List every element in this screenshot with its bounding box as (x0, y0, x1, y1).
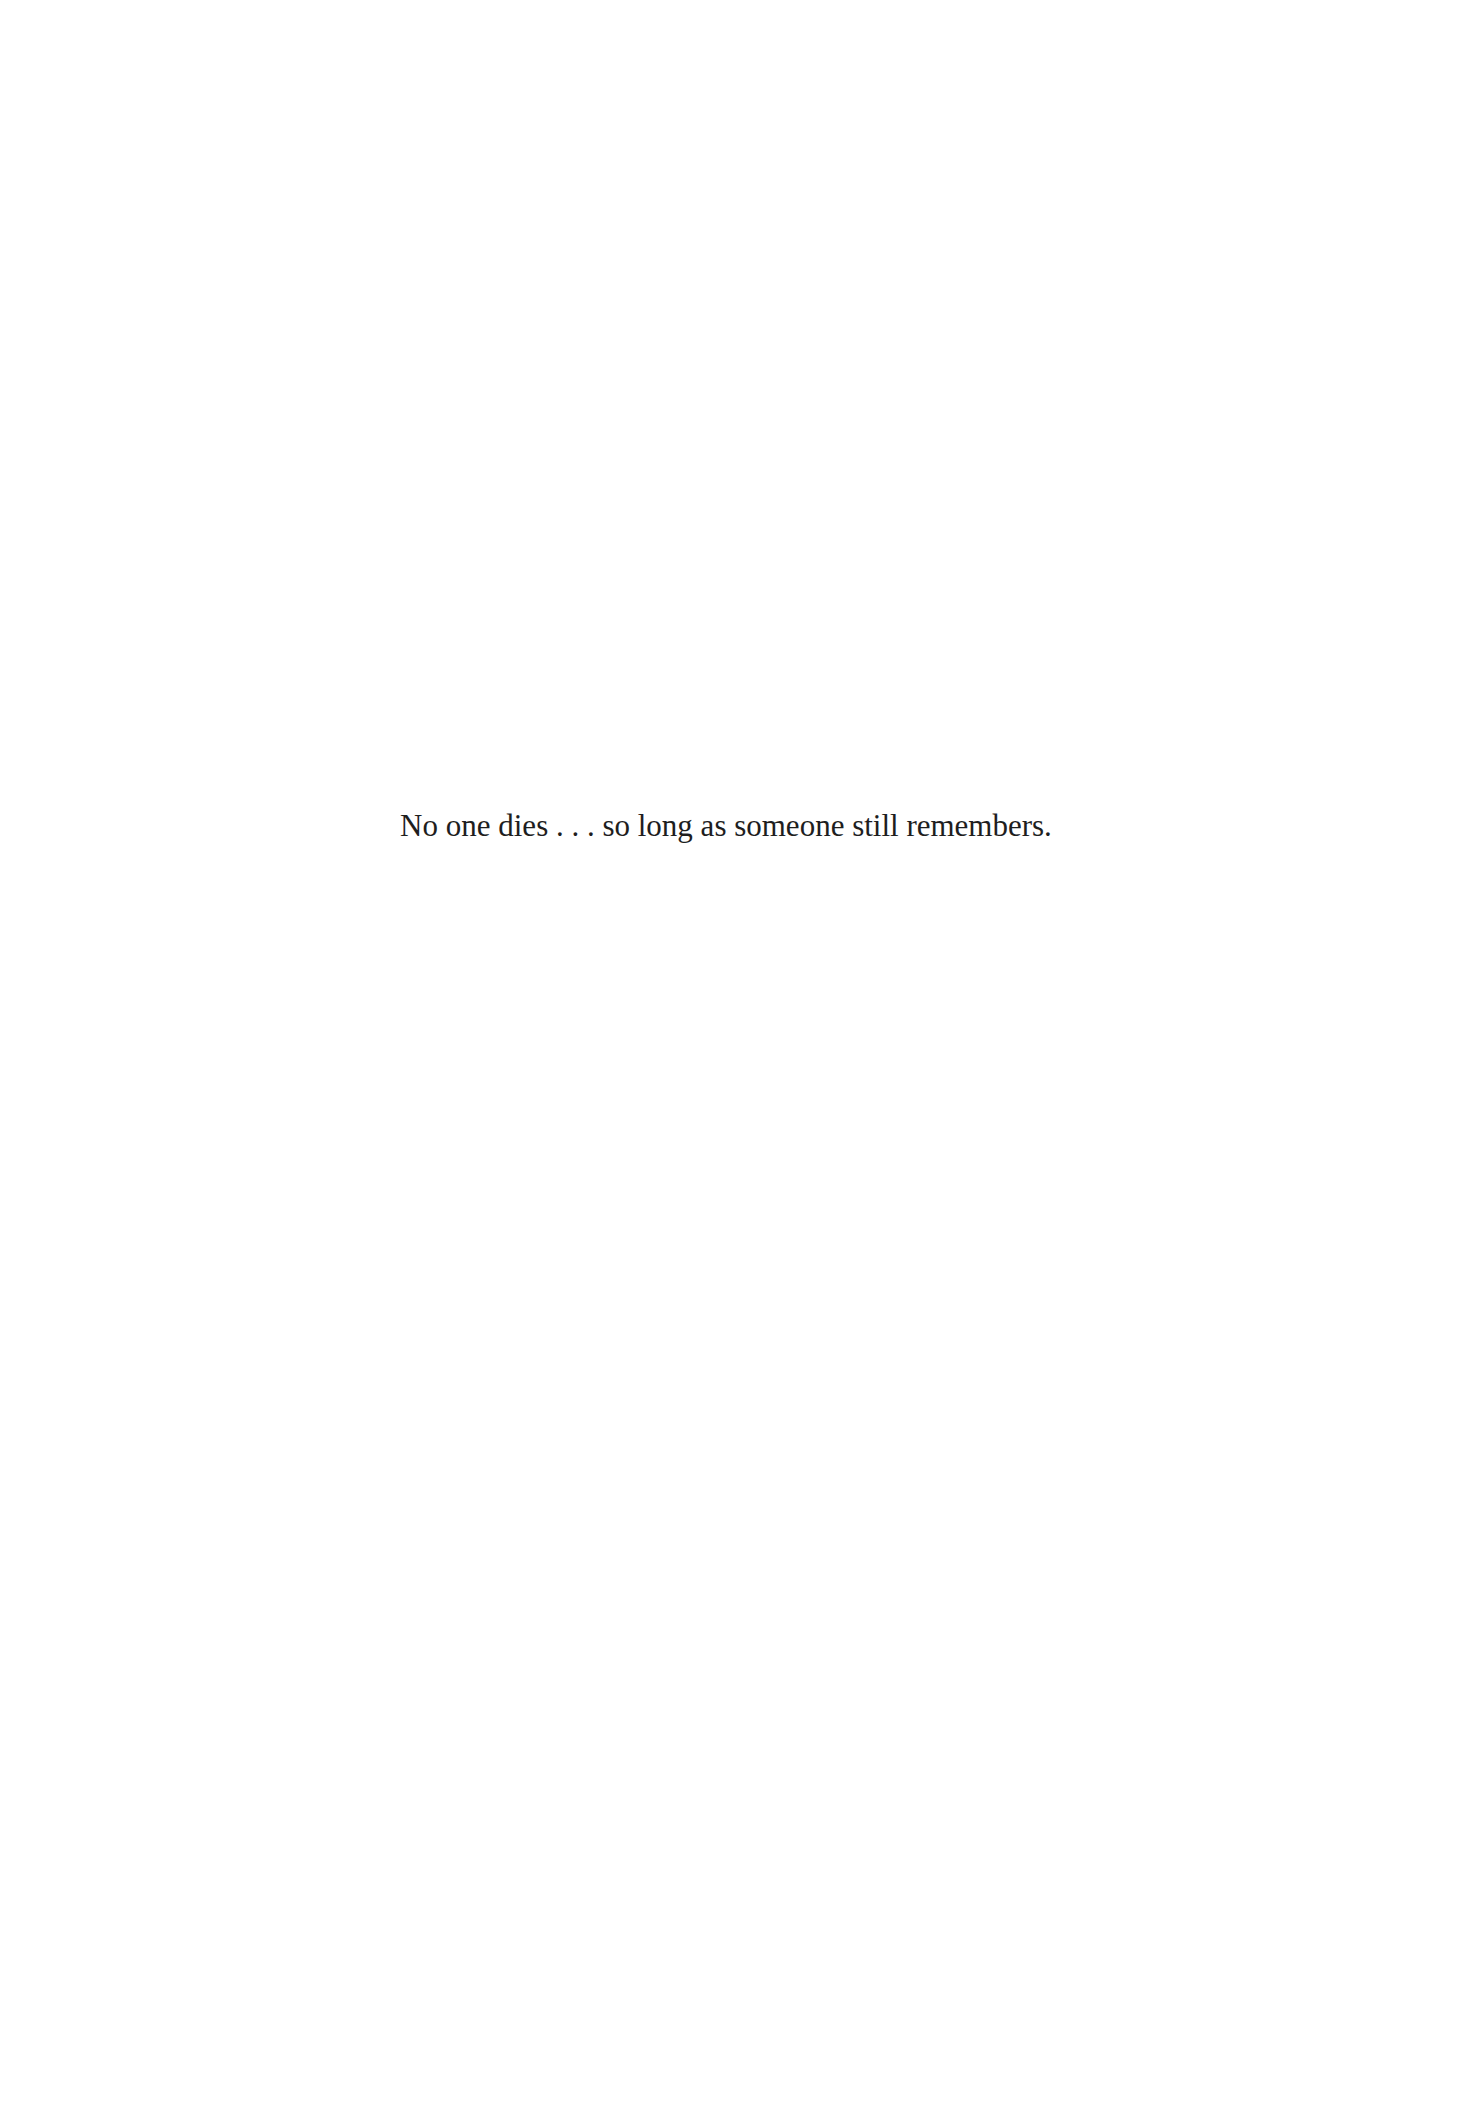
epigraph-quote: No one dies . . . so long as someone sti… (0, 806, 1452, 846)
document-page: No one dies . . . so long as someone sti… (0, 0, 1483, 2106)
